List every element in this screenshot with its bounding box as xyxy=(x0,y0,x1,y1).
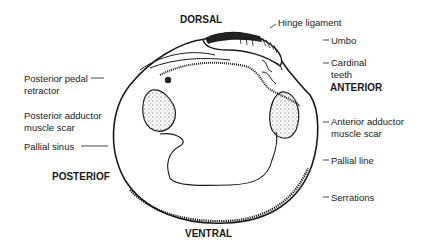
anterior-adductor-scar xyxy=(270,92,299,138)
label-posterior-adductor-line2: muscle scar xyxy=(24,122,75,133)
label-posterior-pedal-retractor-line2: retractor xyxy=(24,85,59,96)
label-pallial-sinus: Pallial sinus xyxy=(24,141,74,152)
serrations xyxy=(130,168,308,221)
label-anterior-adductor-line2: muscle scar xyxy=(331,128,382,139)
orientation-anterior: ANTERIOR xyxy=(330,82,382,93)
posterior-adductor-scar xyxy=(143,90,176,131)
orientation-dorsal: DORSAL xyxy=(180,14,222,25)
bivalve-diagram: DORSAL VENTRAL POSTERIOF ANTERIOR Hinge … xyxy=(0,0,431,250)
label-posterior-pedal-retractor-line1: Posterior pedal xyxy=(24,73,88,84)
label-umbo: Umbo xyxy=(331,35,356,46)
posterior-pedal-retractor-scar xyxy=(165,77,171,83)
pallial-line xyxy=(160,132,277,185)
label-posterior-adductor-line1: Posterior adductor xyxy=(24,110,102,121)
label-anterior-adductor-line1: Anterior adductor xyxy=(331,116,404,127)
label-cardinal-teeth-line1: Cardinal xyxy=(331,57,366,68)
label-serrations: Serrations xyxy=(331,192,374,203)
orientation-ventral: VENTRAL xyxy=(185,228,232,239)
label-cardinal-teeth-line2: teeth xyxy=(331,69,352,80)
label-pallial-line: Pallial line xyxy=(331,155,374,166)
label-hinge-ligament: Hinge ligament xyxy=(278,17,341,28)
orientation-posterior: POSTERIOF xyxy=(52,171,110,182)
